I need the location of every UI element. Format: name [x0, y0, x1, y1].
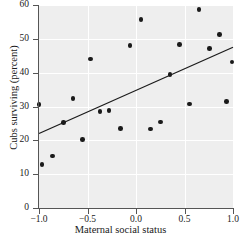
- trend-line: [39, 5, 233, 208]
- y-tick-mark: [33, 5, 39, 6]
- data-point: [168, 72, 173, 77]
- y-tick-mark: [33, 73, 39, 74]
- data-point: [207, 46, 212, 51]
- x-tick-label: −0.5: [68, 214, 108, 224]
- y-tick-label: 0: [1, 202, 29, 212]
- x-tick-label: −1.0: [19, 214, 59, 224]
- plot-area: [39, 5, 233, 208]
- x-tick-label: 1.0: [213, 214, 241, 224]
- data-point: [158, 120, 163, 125]
- y-tick-mark: [33, 140, 39, 141]
- data-point: [80, 137, 85, 142]
- data-point: [50, 154, 55, 159]
- data-point: [71, 96, 76, 101]
- data-point: [217, 32, 222, 37]
- gridline-vertical: [233, 5, 234, 208]
- y-tick-label: 60: [1, 0, 29, 9]
- x-tick-label: 0.5: [165, 214, 205, 224]
- x-axis-title: Maternal social status: [0, 224, 241, 235]
- scatter-plot-figure: 0102030405060 −1.0−0.50.00.51.0 Maternal…: [0, 0, 241, 240]
- data-point: [88, 57, 93, 62]
- data-point: [177, 42, 182, 47]
- data-point: [187, 102, 192, 107]
- y-tick-mark: [33, 39, 39, 40]
- y-tick-mark: [33, 107, 39, 108]
- data-point: [224, 99, 229, 104]
- data-point: [107, 108, 112, 113]
- data-point: [61, 120, 66, 125]
- x-tick-label: 0.0: [116, 214, 156, 224]
- y-axis-title: Cubs surviving (percent): [8, 23, 19, 173]
- data-point: [118, 126, 123, 131]
- data-point: [139, 17, 144, 22]
- y-tick-mark: [33, 174, 39, 175]
- data-point: [40, 162, 45, 167]
